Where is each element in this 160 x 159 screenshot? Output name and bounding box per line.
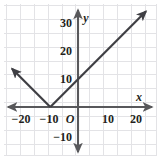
x-tick-neg20: −20	[12, 112, 31, 126]
x-tick-10: 10	[102, 112, 114, 126]
y-tick-20: 20	[60, 44, 72, 58]
y-axis-label: y	[81, 11, 89, 25]
x-axis-label: x	[135, 90, 142, 104]
coordinate-plane-svg: 30 20 10 −10 −20 −10 10 20 O x y	[0, 0, 160, 159]
x-tick-neg10: −10	[40, 112, 59, 126]
origin-label: O	[66, 112, 75, 126]
y-tick-30: 30	[60, 16, 72, 30]
graph-figure: 30 20 10 −10 −20 −10 10 20 O x y	[0, 0, 160, 159]
x-tick-20: 20	[130, 112, 142, 126]
y-tick-10: 10	[60, 72, 72, 86]
y-tick-neg10: −10	[53, 130, 72, 144]
